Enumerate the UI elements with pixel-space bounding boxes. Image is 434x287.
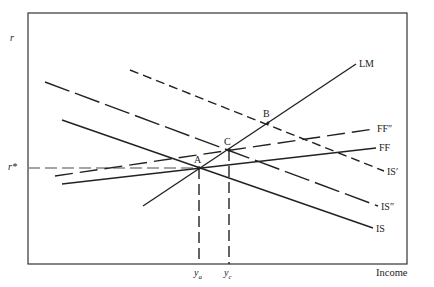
point-b-marker bbox=[267, 122, 270, 125]
r-star-label: r* bbox=[8, 162, 17, 172]
yc-label-sub: c bbox=[228, 273, 231, 281]
point-b-label: B bbox=[263, 109, 270, 119]
point-c-marker bbox=[227, 148, 231, 152]
ff-label: FF bbox=[379, 143, 390, 153]
is-double-prime-curve bbox=[45, 82, 378, 206]
y-axis-label: r bbox=[10, 33, 14, 43]
plot-frame bbox=[28, 13, 407, 264]
point-a-label: A bbox=[194, 155, 201, 165]
diagram-canvas bbox=[0, 0, 434, 287]
ya-label-sub: a bbox=[198, 273, 202, 281]
is-label: IS bbox=[376, 224, 385, 234]
lm-label: LM bbox=[359, 59, 374, 69]
is-double-prime-label: IS″ bbox=[381, 202, 394, 212]
is-prime-curve bbox=[130, 70, 384, 171]
is-curve bbox=[62, 120, 373, 228]
ff-double-prime-curve bbox=[55, 129, 374, 176]
is-prime-label: IS′ bbox=[387, 167, 398, 177]
x-axis-label: Income bbox=[376, 268, 408, 279]
yc-label: yc bbox=[224, 268, 232, 281]
ya-label: ya bbox=[194, 268, 202, 281]
point-a-marker bbox=[197, 166, 201, 170]
point-c-label: C bbox=[224, 137, 231, 147]
ff-curve bbox=[62, 148, 376, 184]
ff-double-prime-label: FF″ bbox=[377, 124, 392, 134]
